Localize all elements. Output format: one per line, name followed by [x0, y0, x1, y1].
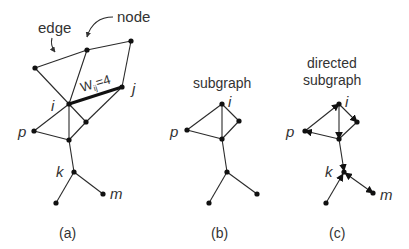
directed-edges-c: [305, 104, 373, 203]
caption-b: (b): [211, 225, 228, 241]
panel-b: subgraph i p (b): [169, 75, 260, 241]
node-label-p-b: p: [169, 123, 178, 140]
panel-c-title-line1: directed: [307, 55, 357, 71]
panel-c: directed subgraph: [285, 55, 393, 241]
node-label-m: m: [110, 185, 123, 202]
node-annotation-label: node: [117, 8, 150, 25]
node-label-i-b: i: [228, 93, 232, 110]
node-label-j: j: [130, 80, 136, 97]
edges-b: [187, 104, 257, 203]
node-annotation-arrow-icon: [87, 17, 113, 37]
panel-b-title: subgraph: [193, 75, 251, 91]
caption-a: (a): [59, 225, 76, 241]
edge-annotation-label: edge: [38, 19, 71, 36]
edge-annotation-arrow-icon: [51, 38, 55, 52]
node-label-p-c: p: [285, 123, 294, 140]
caption-c: (c): [329, 225, 345, 241]
panel-c-title-line2: subgraph: [303, 72, 361, 88]
node-label-i-c: i: [345, 93, 349, 110]
panel-a: edge node Wij=4: [17, 8, 150, 241]
edges-a: [34, 41, 131, 203]
node-label-k-c: k: [325, 163, 334, 180]
node-label-k: k: [56, 163, 65, 180]
node-label-m-c: m: [380, 186, 393, 203]
node-label-p: p: [17, 123, 26, 140]
network-diagram: edge node Wij=4: [0, 0, 409, 249]
node-label-i: i: [51, 97, 55, 114]
